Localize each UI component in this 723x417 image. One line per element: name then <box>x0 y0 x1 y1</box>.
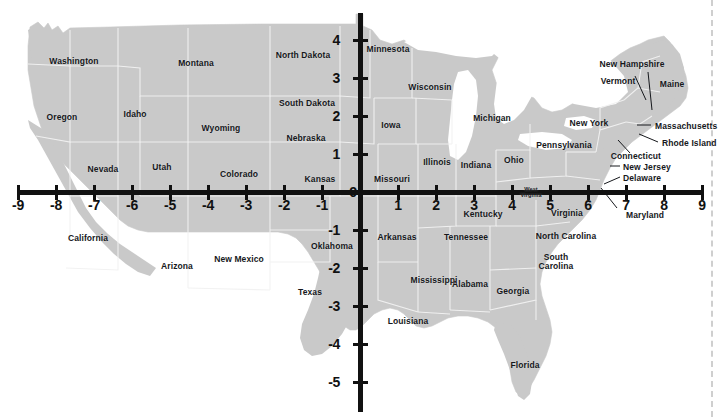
state-label-idaho: Idaho <box>123 110 146 119</box>
y-tick-label--2: -2 <box>312 260 340 276</box>
x-tick-label--4: -4 <box>193 197 223 213</box>
right-dashed-guide <box>711 0 713 417</box>
y-tick--5 <box>353 381 368 384</box>
state-callout-label-connecticut: Connecticut <box>611 152 661 161</box>
state-label-north-dakota: North Dakota <box>276 51 331 60</box>
y-axis-line <box>358 13 363 412</box>
state-label-new-york: New York <box>570 119 609 128</box>
y-tick-label--5: -5 <box>312 374 340 390</box>
state-label-indiana: Indiana <box>461 161 491 170</box>
state-label-arkansas: Arkansas <box>377 233 416 242</box>
state-label-west-virginia: WestVirginia <box>520 187 541 198</box>
x-tick-label--6: -6 <box>117 197 147 213</box>
y-tick-label-4: 4 <box>312 32 340 48</box>
state-label-ohio: Ohio <box>504 156 524 165</box>
axis-origin-label: 0 <box>343 183 363 200</box>
state-label-wyoming: Wyoming <box>202 124 241 133</box>
state-label-oklahoma: Oklahoma <box>311 242 353 251</box>
x-tick-label-2: 2 <box>421 197 451 213</box>
state-label-pennsylvania: Pennsylvania <box>536 141 592 150</box>
state-callout-label-rhode-island: Rhode Island <box>662 139 717 148</box>
state-label-south-carolina: SouthCarolina <box>539 253 574 271</box>
state-label-north-carolina: North Carolina <box>536 232 596 241</box>
state-label-illinois: Illinois <box>423 158 451 167</box>
state-label-new-hampshire: New Hampshire <box>599 60 664 69</box>
state-label-vermont: Vermont <box>601 77 636 86</box>
state-label-tennessee: Tennessee <box>444 233 488 242</box>
state-label-line: Virginia <box>520 193 541 199</box>
state-label-missouri: Missouri <box>374 175 410 184</box>
x-tick-label--5: -5 <box>155 197 185 213</box>
y-tick-label--4: -4 <box>312 336 340 352</box>
x-tick-label--2: -2 <box>269 197 299 213</box>
state-label-nebraska: Nebraska <box>286 134 325 143</box>
state-label-mississippi: Mississippi <box>411 276 458 285</box>
state-label-washington: Washington <box>49 57 98 66</box>
state-callout-label-delaware: Delaware <box>623 174 661 183</box>
state-label-alabama: Alabama <box>452 280 488 289</box>
state-label-arizona: Arizona <box>161 262 193 271</box>
y-tick--1 <box>353 229 368 232</box>
y-tick-1 <box>353 153 368 156</box>
state-label-virginia: Virginia <box>551 209 583 218</box>
state-label-louisiana: Louisiana <box>388 317 429 326</box>
x-tick-label--8: -8 <box>41 197 71 213</box>
y-tick-label-1: 1 <box>312 146 340 162</box>
y-tick-3 <box>353 77 368 80</box>
x-tick-label-1: 1 <box>383 197 413 213</box>
state-label-iowa: Iowa <box>381 121 400 130</box>
y-tick-label--3: -3 <box>312 298 340 314</box>
state-label-nevada: Nevada <box>88 165 119 174</box>
y-tick-label-2: 2 <box>312 108 340 124</box>
state-label-california: California <box>68 234 108 243</box>
y-tick--4 <box>353 343 368 346</box>
state-label-new-mexico: New Mexico <box>214 255 264 264</box>
state-label-florida: Florida <box>510 361 539 370</box>
state-label-line: Carolina <box>539 262 574 271</box>
x-tick-label--3: -3 <box>231 197 261 213</box>
y-tick-label-3: 3 <box>312 70 340 86</box>
state-label-utah: Utah <box>152 163 171 172</box>
state-label-wisconsin: Wisconsin <box>408 83 451 92</box>
x-tick-label--9: -9 <box>3 197 33 213</box>
state-callout-label-new-jersey: New Jersey <box>623 163 671 172</box>
state-label-maine: Maine <box>660 80 685 89</box>
state-label-georgia: Georgia <box>497 287 530 296</box>
state-label-kentucky: Kentucky <box>463 210 502 219</box>
state-callout-label-maryland: Maryland <box>626 211 664 220</box>
state-label-texas: Texas <box>298 288 322 297</box>
y-tick-4 <box>353 39 368 42</box>
x-tick-label--7: -7 <box>79 197 109 213</box>
y-tick--2 <box>353 267 368 270</box>
state-label-montana: Montana <box>178 59 214 68</box>
state-label-oregon: Oregon <box>47 113 78 122</box>
state-label-kansas: Kansas <box>305 175 336 184</box>
state-label-minnesota: Minnesota <box>367 45 410 54</box>
us-map-figure: -9-8-7-6-5-4-3-2-11234567894321-1-2-3-4-… <box>0 0 723 417</box>
state-label-south-dakota: South Dakota <box>279 99 335 108</box>
state-label-colorado: Colorado <box>220 170 258 179</box>
x-tick-label--1: -1 <box>307 197 337 213</box>
state-label-michigan: Michigan <box>473 114 511 123</box>
state-callout-label-massachusetts: Massachusetts <box>655 122 717 131</box>
y-tick-2 <box>353 115 368 118</box>
y-tick-label--1: -1 <box>312 222 340 238</box>
y-tick--3 <box>353 305 368 308</box>
